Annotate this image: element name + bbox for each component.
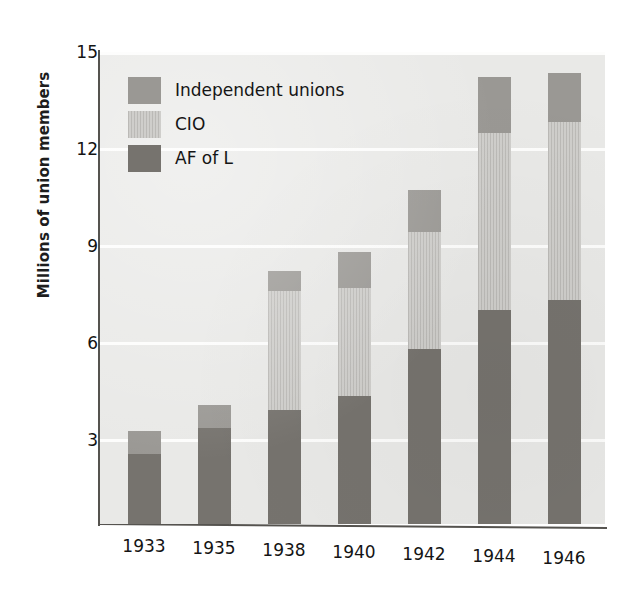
bar-segment-afl-1938 (268, 410, 301, 524)
bar-segment-cio-1946 (548, 122, 581, 300)
y-axis-tick-6: 6 (58, 333, 98, 353)
bar-segment-afl-1944 (478, 310, 511, 524)
bar-segment-independent-1946 (548, 73, 581, 122)
legend-label-independent-unions: Independent unions (175, 80, 344, 100)
bar-segment-afl-1946 (548, 300, 581, 524)
bar-segment-cio-1938 (268, 291, 301, 410)
legend: Independent unions CIO AF of L (128, 73, 428, 175)
x-axis-tick-1946: 1946 (529, 548, 599, 568)
legend-item-cio: CIO (128, 107, 428, 141)
legend-swatch-cio (128, 111, 161, 138)
y-axis-tick-12: 12 (58, 139, 98, 159)
y-axis-tick-15: 15 (58, 42, 98, 62)
gridline-9 (100, 245, 605, 248)
gridline-15 (100, 52, 605, 55)
x-axis-tick-1942: 1942 (389, 544, 459, 564)
bar-segment-cio-1942 (408, 232, 441, 349)
legend-swatch-independent-unions (128, 77, 161, 104)
legend-swatch-af-of-l (128, 145, 161, 172)
x-axis-tick-1940: 1940 (319, 542, 389, 562)
bar-segment-independent-1940 (338, 252, 371, 288)
x-axis-tick-1935: 1935 (179, 538, 249, 558)
bar-segment-afl-1940 (338, 396, 371, 524)
legend-label-af-of-l: AF of L (175, 148, 233, 168)
y-axis-title: Millions of union members (30, 35, 58, 335)
y-axis-tick-3: 3 (58, 430, 98, 450)
y-axis-tick-9: 9 (58, 236, 98, 256)
bar-segment-independent-1942 (408, 190, 441, 232)
x-axis-tick-1938: 1938 (249, 540, 319, 560)
bar-segment-afl-1933 (128, 454, 161, 524)
legend-label-cio: CIO (175, 114, 205, 134)
bar-segment-afl-1942 (408, 349, 441, 524)
legend-item-af-of-l: AF of L (128, 141, 428, 175)
x-axis-tick-1944: 1944 (459, 546, 529, 566)
bar-segment-independent-1938 (268, 271, 301, 291)
bar-segment-afl-1935 (198, 428, 231, 524)
bar-segment-cio-1940 (338, 288, 371, 396)
bar-segment-independent-1935 (198, 405, 231, 428)
bar-segment-independent-1933 (128, 431, 161, 454)
bar-segment-cio-1944 (478, 133, 511, 310)
legend-item-independent-unions: Independent unions (128, 73, 428, 107)
x-axis-tick-1933: 1933 (109, 536, 179, 556)
union-membership-stacked-bar-chart: Millions of union members 15 12 9 6 3 (0, 0, 628, 598)
bar-segment-independent-1944 (478, 77, 511, 133)
